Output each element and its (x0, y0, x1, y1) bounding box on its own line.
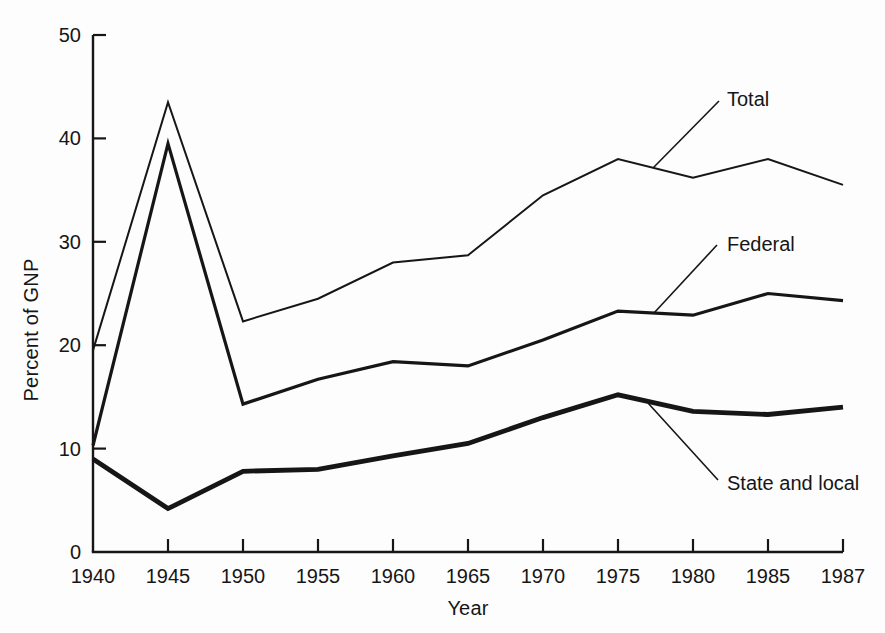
series-line-total (93, 102, 843, 350)
x-tick-label: 1987 (821, 565, 866, 587)
y-axis-title: Percent of GNP (19, 230, 43, 430)
x-tick-label: 1950 (221, 565, 266, 587)
annotation-line-federal (654, 245, 717, 313)
y-tick-label: 50 (59, 24, 81, 46)
x-tick-label: 1960 (371, 565, 416, 587)
x-tick-label: 1985 (746, 565, 791, 587)
x-tick-label: 1940 (71, 565, 116, 587)
y-tick-label: 30 (59, 231, 81, 253)
x-tick-label: 1980 (671, 565, 716, 587)
y-tick-label: 40 (59, 127, 81, 149)
x-tick-label: 1955 (296, 565, 341, 587)
x-tick-label: 1965 (446, 565, 491, 587)
y-tick-label: 0 (70, 541, 81, 563)
series-line-federal (93, 144, 843, 446)
annotation-label-federal: Federal (727, 233, 795, 255)
x-tick-label: 1970 (521, 565, 566, 587)
x-tick-label: 1945 (146, 565, 191, 587)
line-chart-canvas: 0102030405019401945195019551960196519701… (0, 0, 885, 633)
annotation-line-state-and-local (648, 403, 718, 480)
percent-of-gnp-line-chart-figure: 0102030405019401945195019551960196519701… (0, 0, 885, 633)
x-axis-title: Year (93, 596, 843, 620)
annotation-label-state-and-local: State and local (727, 472, 859, 494)
y-tick-label: 10 (59, 438, 81, 460)
y-tick-label: 20 (59, 334, 81, 356)
annotation-label-total: Total (727, 88, 769, 110)
x-tick-label: 1975 (596, 565, 641, 587)
annotation-line-total (653, 101, 719, 168)
